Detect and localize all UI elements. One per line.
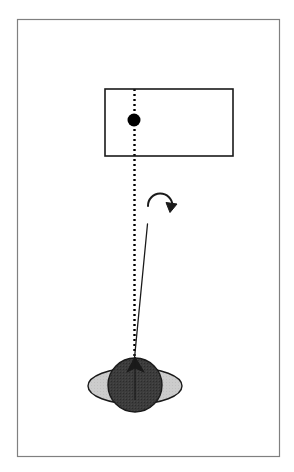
diagram-canvas [0, 0, 294, 472]
black-dot [128, 114, 141, 127]
figure-root [0, 0, 294, 472]
